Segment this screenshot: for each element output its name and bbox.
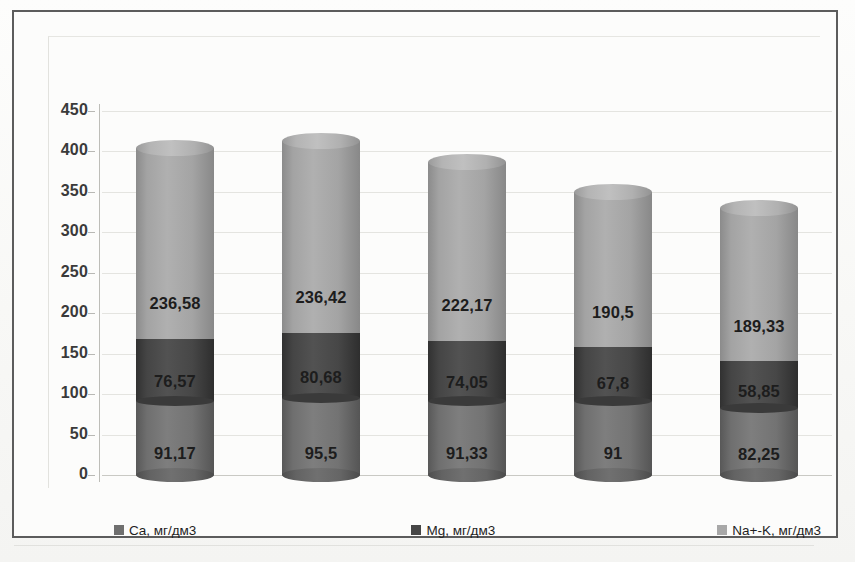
bar-value-label-2009-ca: 95,5 — [282, 444, 360, 463]
bar-2009[interactable]: 95,580,68236,42 — [282, 141, 360, 475]
segment-body — [136, 339, 214, 401]
bar-value-label-2008-nak: 236,58 — [136, 294, 214, 313]
y-axis: 050100150200250300350400450 — [36, 111, 88, 475]
cylinder-top-cap — [720, 200, 798, 216]
bar-2011[interactable]: 9167,8190,5 — [574, 192, 652, 475]
segment-joint — [282, 393, 360, 403]
bar-segment-2011-ca[interactable]: 91 — [574, 401, 652, 475]
y-axis-tick-mark — [88, 151, 95, 152]
y-axis-tick-label: 0 — [40, 465, 88, 483]
legend-label: Mg, мг/дм3 — [426, 523, 495, 538]
legend-item-nak[interactable]: Na+-K, мг/дм3 — [717, 523, 821, 538]
bar-segment-2011-nak[interactable]: 190,5 — [574, 192, 652, 346]
y-axis-tick-label: 300 — [40, 222, 88, 240]
y-axis-tick-mark — [88, 273, 95, 274]
cylinder-bottom-cap — [428, 468, 506, 482]
bar-2012[interactable]: 82,2558,85189,33 — [720, 208, 798, 475]
bar-value-label-2012-mg: 58,85 — [720, 382, 798, 401]
y-axis-line — [99, 104, 100, 482]
bar-segment-2010-mg[interactable]: 74,05 — [428, 341, 506, 401]
y-axis-tick-mark — [88, 232, 95, 233]
bar-value-label-2010-ca: 91,33 — [428, 444, 506, 463]
legend-swatch-icon — [717, 525, 727, 535]
cylinder-top-cap — [136, 140, 214, 156]
bar-value-label-2009-mg: 80,68 — [282, 368, 360, 387]
bar-segment-2009-nak[interactable]: 236,42 — [282, 141, 360, 332]
legend-item-mg[interactable]: Mg, мг/дм3 — [411, 523, 495, 538]
cylinder-top-cap — [428, 154, 506, 170]
bar-2010[interactable]: 91,3374,05222,17 — [428, 162, 506, 475]
legend-swatch-icon — [114, 525, 124, 535]
legend-label: Na+-K, мг/дм3 — [732, 523, 821, 538]
y-axis-tick-label: 50 — [40, 425, 88, 443]
y-axis-tick-label: 400 — [40, 141, 88, 159]
bar-value-label-2009-nak: 236,42 — [282, 288, 360, 307]
cylinder-bottom-cap — [136, 468, 214, 482]
cylinder-bottom-cap — [282, 468, 360, 482]
bar-segment-2009-mg[interactable]: 80,68 — [282, 333, 360, 398]
gridline-450 — [102, 111, 832, 112]
bar-segment-2010-nak[interactable]: 222,17 — [428, 162, 506, 342]
bar-segment-2012-ca[interactable]: 82,25 — [720, 408, 798, 475]
segment-body — [282, 333, 360, 398]
legend-label: Ca, мг/дм3 — [129, 523, 196, 538]
y-axis-tick-mark — [88, 313, 95, 314]
segment-body — [136, 401, 214, 475]
bar-segment-2008-nak[interactable]: 236,58 — [136, 148, 214, 339]
y-axis-tick-label: 450 — [40, 101, 88, 119]
y-axis-tick-mark — [88, 475, 95, 476]
cylinder-bottom-cap — [574, 468, 652, 482]
y-axis-tick-mark — [88, 192, 95, 193]
chart-frame: 050100150200250300350400450 91,1776,5723… — [12, 10, 838, 538]
bar-segment-2009-ca[interactable]: 95,5 — [282, 398, 360, 475]
y-axis-tick-label: 150 — [40, 344, 88, 362]
bar-segment-2008-mg[interactable]: 76,57 — [136, 339, 214, 401]
plot-area: 91,1776,57236,58200895,580,68236,4220099… — [102, 111, 832, 475]
bar-segment-2010-ca[interactable]: 91,33 — [428, 401, 506, 475]
scan-artifact-line — [14, 545, 814, 546]
bar-value-label-2012-ca: 82,25 — [720, 445, 798, 464]
scanned-page: 050100150200250300350400450 91,1776,5723… — [0, 0, 855, 562]
segment-body — [574, 401, 652, 475]
segment-body — [720, 208, 798, 361]
bar-segment-2012-nak[interactable]: 189,33 — [720, 208, 798, 361]
legend-swatch-icon — [411, 525, 421, 535]
y-axis-tick-label: 250 — [40, 263, 88, 281]
legend-item-ca[interactable]: Ca, мг/дм3 — [114, 523, 196, 538]
y-axis-tick-mark — [88, 111, 95, 112]
bar-value-label-2011-nak: 190,5 — [574, 303, 652, 322]
segment-body — [574, 192, 652, 346]
bar-value-label-2011-mg: 67,8 — [574, 374, 652, 393]
segment-body — [428, 401, 506, 475]
bar-value-label-2008-ca: 91,17 — [136, 444, 214, 463]
bar-value-label-2008-mg: 76,57 — [136, 372, 214, 391]
chart-legend: Ca, мг/дм3Mg, мг/дм3Na+-K, мг/дм3 — [48, 517, 820, 543]
bar-2008[interactable]: 91,1776,57236,58 — [136, 148, 214, 475]
bar-segment-2012-mg[interactable]: 58,85 — [720, 361, 798, 409]
bar-value-label-2012-nak: 189,33 — [720, 317, 798, 336]
y-axis-tick-mark — [88, 354, 95, 355]
segment-body — [720, 408, 798, 475]
y-axis-tick-label: 350 — [40, 182, 88, 200]
bar-value-label-2011-ca: 91 — [574, 444, 652, 463]
y-axis-tick-mark — [88, 435, 95, 436]
y-axis-tick-label: 100 — [40, 384, 88, 402]
bar-segment-2008-ca[interactable]: 91,17 — [136, 401, 214, 475]
bar-segment-2011-mg[interactable]: 67,8 — [574, 347, 652, 402]
y-axis-tick-mark — [88, 394, 95, 395]
cylinder-bottom-cap — [720, 468, 798, 482]
segment-body — [428, 341, 506, 401]
bar-value-label-2010-mg: 74,05 — [428, 373, 506, 392]
y-axis-tick-label: 200 — [40, 303, 88, 321]
bar-value-label-2010-nak: 222,17 — [428, 296, 506, 315]
segment-body — [282, 398, 360, 475]
